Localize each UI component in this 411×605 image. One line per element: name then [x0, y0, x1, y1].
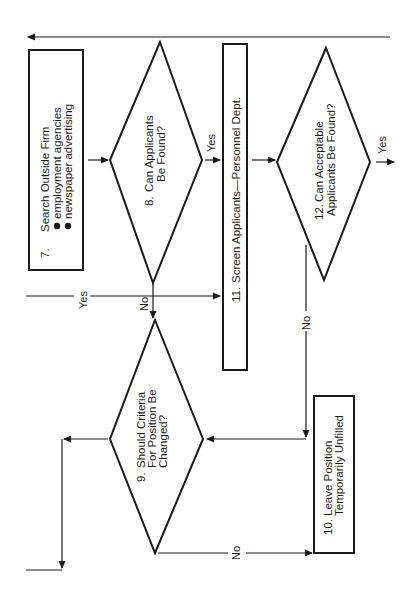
node-9-line3: Changed?: [157, 415, 169, 468]
bullet-icon: [54, 223, 60, 229]
label-12-yes: Yes: [376, 136, 388, 154]
bullet-icon: [65, 223, 71, 229]
node-10-line2: Temporarily Unfilled: [333, 415, 345, 516]
node-7-number: 7.: [39, 248, 51, 258]
node-7-title: Search Outside Firm: [39, 127, 51, 232]
flowchart-canvas: 7. Search Outside Firm employment agenci…: [0, 0, 411, 605]
node-7-bullet-2: newspaper advertising: [62, 104, 74, 219]
label-9-no: No: [230, 546, 242, 560]
node-9-number: 9.: [135, 472, 147, 482]
node-11-title: Screen Applicants—Personnel Dept.: [230, 97, 242, 283]
node-8-line2: Be Found?: [155, 126, 167, 182]
node-12-number: 12.: [313, 204, 325, 220]
node-10-number: 10.: [322, 519, 334, 535]
node-12-line2: Applicants Be Found?: [325, 103, 337, 216]
label-8-yes: Yes: [205, 134, 217, 152]
node-8-number: 8.: [143, 196, 155, 206]
label-12-no: No: [300, 316, 312, 330]
label-8-no: No: [138, 297, 150, 311]
node-12-line1: Can Acceptable: [313, 121, 325, 202]
label-incoming-yes: Yes: [77, 291, 89, 309]
node-8-line1: Can Applicants: [143, 115, 155, 192]
node-11-number: 11.: [230, 287, 242, 302]
